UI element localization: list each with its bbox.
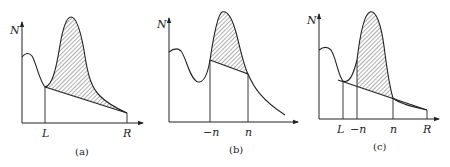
panel-a-x-mark-L: L: [41, 127, 49, 140]
panel-a: N L R (a): [9, 17, 143, 157]
panel-c-y-label: N: [306, 14, 317, 27]
panel-b: N −n n (b): [156, 12, 298, 155]
panel-c-hatched-area: [357, 12, 393, 98]
panel-a-y-label: N: [9, 24, 20, 37]
panel-c-x-mark-minus-n: −n: [350, 123, 366, 136]
panel-c-x-mark-L: L: [336, 123, 344, 136]
panel-c: N L −n n R (c): [306, 12, 439, 152]
panel-c-x-mark-n: n: [390, 123, 397, 136]
panel-b-x-mark-minus-n: −n: [203, 126, 219, 139]
panel-b-caption: (b): [229, 144, 243, 155]
panel-b-hatched-area: [210, 12, 248, 74]
panel-c-x-mark-R: R: [422, 123, 431, 136]
figure-canvas: N L R (a) N −n n (b) N L −n n R (c): [0, 0, 450, 167]
panel-c-caption: (c): [373, 141, 387, 152]
panel-b-y-label: N: [156, 18, 167, 31]
panel-a-x-mark-R: R: [122, 127, 131, 140]
panel-b-x-mark-n: n: [245, 126, 252, 139]
panel-a-caption: (a): [75, 146, 89, 157]
